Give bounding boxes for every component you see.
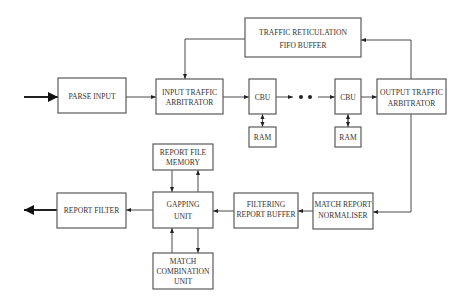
cbu-2-label: CBU	[340, 93, 356, 102]
match-combination-unit-label-line1: MATCH	[170, 257, 197, 266]
input-traffic-arbitrator-block: INPUT TRAFFIC ARBITRATOR	[156, 79, 223, 114]
fifo-buffer-label-line2: FIFO BUFFER	[279, 41, 327, 50]
ram-1-label: RAM	[254, 133, 272, 142]
input-traffic-arbitrator-label-line1: INPUT TRAFFIC	[162, 88, 217, 97]
output-traffic-arbitrator-label-line1: OUTPUT TRAFFIC	[380, 88, 443, 97]
match-report-normaliser-label-line2: NORMALISER	[318, 211, 368, 220]
block-diagram: PARSE INPUT INPUT TRAFFIC ARBITRATOR TRA…	[0, 0, 466, 305]
match-combination-unit-label-line2: COMBINATION	[156, 267, 210, 276]
output-to-normaliser-arrow	[373, 114, 411, 212]
filtering-report-buffer-label-line1: FILTERING	[247, 200, 286, 209]
fifo-buffer-label-line1: TRAFFIC RETICULATION	[259, 28, 347, 37]
output-traffic-arbitrator-block: OUTPUT TRAFFIC ARBITRATOR	[377, 79, 446, 114]
fifo-to-input-arbitrator-arrow	[185, 39, 245, 79]
filtering-report-buffer-block: FILTERING REPORT BUFFER	[234, 193, 298, 228]
cbu-chain-ellipsis	[299, 95, 312, 99]
gapping-unit-label-line2: UNIT	[174, 212, 192, 221]
report-filter-label: REPORT FILTER	[64, 206, 120, 215]
match-combination-unit-block: MATCH COMBINATION UNIT	[153, 253, 213, 289]
filtering-report-buffer-label-line2: REPORT BUFFER	[236, 210, 296, 219]
cbu-block-2: CBU	[335, 79, 361, 114]
match-report-normaliser-block: MATCH REPORT NORMALISER	[313, 193, 373, 229]
cbu-1-label: CBU	[255, 93, 271, 102]
match-report-normaliser-label-line1: MATCH REPORT	[314, 200, 371, 209]
gapping-unit-label-line1: GAPPING	[167, 200, 200, 209]
report-filter-block: REPORT FILTER	[57, 193, 126, 228]
parse-input-block: PARSE INPUT	[58, 78, 126, 113]
ram-block-1: RAM	[249, 127, 276, 147]
gapping-unit-block: GAPPING UNIT	[153, 192, 213, 228]
output-traffic-arbitrator-label-line2: ARBITRATOR	[388, 99, 436, 108]
report-file-memory-label-line2: MEMORY	[166, 158, 200, 167]
parse-input-label: PARSE INPUT	[68, 92, 116, 101]
input-traffic-arbitrator-label-line2: ARBITRATOR	[166, 98, 214, 107]
ram-2-label: RAM	[339, 133, 357, 142]
ram-block-2: RAM	[335, 127, 361, 147]
match-combination-unit-label-line3: UNIT	[174, 277, 192, 286]
fifo-buffer-block: TRAFFIC RETICULATION FIFO BUFFER	[245, 18, 361, 57]
output-to-fifo-arrow	[361, 40, 411, 79]
cbu-block-1: CBU	[249, 79, 276, 114]
report-file-memory-block: REPORT FILE MEMORY	[153, 144, 213, 170]
report-file-memory-label-line1: REPORT FILE	[160, 148, 207, 157]
